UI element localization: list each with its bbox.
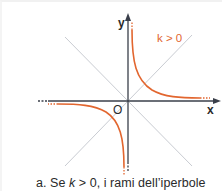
y-axis-arrow-icon <box>125 13 131 21</box>
y-axis-label: y <box>118 16 125 30</box>
origin-label: O <box>113 103 122 117</box>
figure-panel: y x O k > 0 a. Se k > 0, i rami dell’ipe… <box>0 0 222 191</box>
caption-suffix: > 0, i rami dell’iperbole <box>75 176 205 190</box>
curve-label: k > 0 <box>157 32 182 44</box>
x-axis-arrow-icon <box>213 98 221 104</box>
x-axis-label: x <box>207 103 214 117</box>
hyperbola-diagram: y x O k > 0 <box>2 2 222 191</box>
caption-prefix: a. Se <box>36 176 69 190</box>
figure-caption: a. Se k > 0, i rami dell’iperbole <box>36 176 205 190</box>
